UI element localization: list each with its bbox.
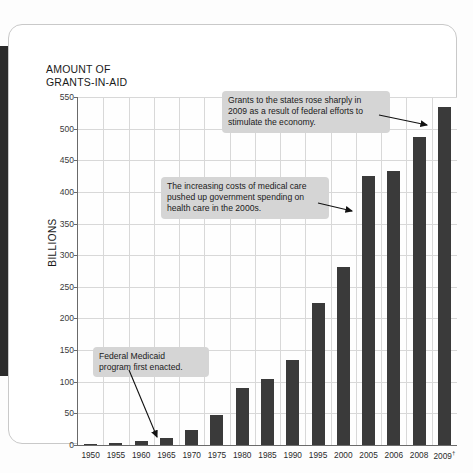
x-tick-label: 1960 bbox=[132, 450, 150, 460]
bar bbox=[286, 360, 299, 445]
x-tick-label: 2008 bbox=[410, 450, 428, 460]
bar-slot bbox=[103, 97, 128, 445]
y-tick-label: 550 bbox=[34, 92, 74, 102]
x-tick-label: 2005 bbox=[359, 450, 377, 460]
chart-title: AMOUNT OF GRANTS-IN-AID bbox=[46, 63, 127, 88]
x-tick-label: 1990 bbox=[284, 450, 302, 460]
bar bbox=[210, 415, 223, 445]
bar bbox=[135, 441, 148, 445]
bar bbox=[261, 379, 274, 445]
y-tick-label: 350 bbox=[34, 219, 74, 229]
bar-slot bbox=[406, 97, 431, 445]
bar-slot bbox=[179, 97, 204, 445]
bar bbox=[312, 303, 325, 445]
y-tick-label: 500 bbox=[34, 124, 74, 134]
bar-slot bbox=[356, 97, 381, 445]
x-tick-label: 1985 bbox=[258, 450, 276, 460]
bar-slot bbox=[129, 97, 154, 445]
bar-slot bbox=[78, 97, 103, 445]
x-tick-label: 1970 bbox=[182, 450, 200, 460]
bar-slot bbox=[280, 97, 305, 445]
x-tick-label: 1965 bbox=[157, 450, 175, 460]
chart-page: AMOUNT OF GRANTS-IN-AID BILLIONS 0501001… bbox=[0, 0, 473, 473]
y-tick-label: 400 bbox=[34, 187, 74, 197]
x-tick-label: 1980 bbox=[233, 450, 251, 460]
y-tick-label: 450 bbox=[34, 155, 74, 165]
bar-slot bbox=[381, 97, 406, 445]
x-tick-label: 2006 bbox=[385, 450, 403, 460]
y-tick-label: 50 bbox=[34, 408, 74, 418]
y-axis-title: BILLIONS bbox=[47, 198, 58, 288]
bar-slot bbox=[255, 97, 280, 445]
bar bbox=[160, 438, 173, 445]
bar-slot bbox=[331, 97, 356, 445]
bar-slot bbox=[204, 97, 229, 445]
bar bbox=[387, 171, 400, 445]
bar bbox=[413, 137, 426, 445]
plot-area: 050100150200250300350400450500550 195019… bbox=[78, 97, 457, 445]
bar-series bbox=[78, 97, 457, 445]
y-tick-label: 300 bbox=[34, 250, 74, 260]
bar bbox=[185, 430, 198, 445]
bar bbox=[362, 176, 375, 445]
y-tick-label: 100 bbox=[34, 377, 74, 387]
bar bbox=[84, 444, 97, 445]
x-tick-label: 1995 bbox=[309, 450, 327, 460]
y-tick-label: 0 bbox=[34, 440, 74, 450]
annotation-callout-medical-care: The increasing costs of medical care pus… bbox=[161, 177, 329, 219]
y-tick-label: 150 bbox=[34, 345, 74, 355]
chart-card: AMOUNT OF GRANTS-IN-AID BILLIONS 0501001… bbox=[8, 24, 457, 444]
bar bbox=[109, 443, 122, 445]
x-tick-label: 2000 bbox=[334, 450, 352, 460]
bar-slot bbox=[305, 97, 330, 445]
y-tick-mark bbox=[74, 445, 78, 446]
x-tick-label: 1950 bbox=[81, 450, 99, 460]
bar bbox=[236, 388, 249, 445]
bar-slot bbox=[230, 97, 255, 445]
y-tick-label: 200 bbox=[34, 313, 74, 323]
x-tick-label: 1955 bbox=[107, 450, 125, 460]
annotation-callout-2009: Grants to the states rose sharply in 200… bbox=[222, 91, 390, 133]
bar bbox=[438, 107, 451, 446]
bar bbox=[337, 267, 350, 445]
bar-slot bbox=[154, 97, 179, 445]
x-tick-label: 2009† bbox=[433, 450, 455, 461]
annotation-callout-medicaid: Federal Medicaid program first enacted. bbox=[93, 347, 209, 377]
x-tick-label: 1975 bbox=[208, 450, 226, 460]
bar-slot bbox=[432, 97, 457, 445]
y-tick-label: 250 bbox=[34, 282, 74, 292]
